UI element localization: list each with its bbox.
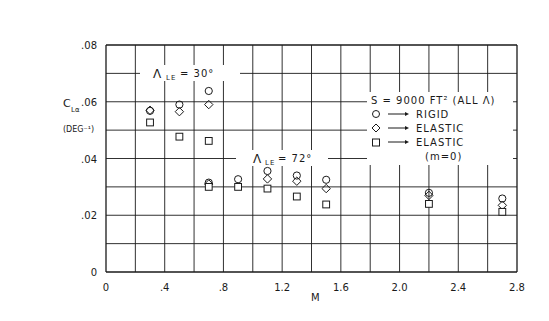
svg-text:(m=0): (m=0)	[425, 151, 462, 162]
circle-marker	[235, 176, 242, 183]
y-tick-label: 0	[91, 267, 97, 278]
legend: S = 9000 FT² (ALL Λ) RIGID ELASTIC ELAST…	[367, 92, 513, 165]
svg-text:Λ: Λ	[253, 152, 262, 166]
x-axis-label: M	[311, 292, 321, 303]
x-tick-label: .4	[160, 282, 170, 293]
svg-text:ELASTIC: ELASTIC	[416, 137, 464, 148]
x-tick-label: .8	[219, 282, 229, 293]
svg-text:= 30°: = 30°	[180, 68, 214, 79]
y-axis-label-subscript: Lα	[71, 106, 80, 114]
square-marker	[176, 133, 183, 140]
diamond-marker	[175, 107, 183, 115]
x-tick-label: 1.6	[333, 282, 349, 293]
x-tick-label: 2.8	[509, 282, 525, 293]
circle-marker	[264, 167, 271, 174]
x-tick-label: 1.2	[274, 282, 290, 293]
svg-text:LE: LE	[166, 74, 176, 82]
y-tick-label: .02	[81, 210, 97, 221]
circle-marker	[323, 176, 330, 183]
square-marker	[147, 119, 154, 126]
circle-marker	[205, 87, 212, 94]
annotation-sweep-72: Λ LE = 72°	[236, 150, 328, 167]
annotation-sweep-30: Λ LE = 30°	[140, 65, 240, 82]
diamond-marker	[322, 184, 330, 192]
y-tick-label: .06	[81, 97, 97, 108]
y-axis-label-units: (DEG⁻¹)	[63, 125, 94, 134]
square-marker	[205, 183, 212, 190]
x-tick-label: 2.0	[392, 282, 408, 293]
x-tick-label: 0	[103, 282, 109, 293]
svg-text:= 72°: = 72°	[278, 153, 312, 164]
svg-text:ELASTIC: ELASTIC	[416, 123, 464, 134]
circle-marker	[293, 172, 300, 179]
x-tick-label: 2.4	[450, 282, 466, 293]
y-axis-tick-labels: 0.02.04.06.08	[81, 40, 97, 278]
svg-text:LE: LE	[265, 159, 275, 167]
svg-text:Λ: Λ	[153, 67, 162, 81]
square-marker	[323, 201, 330, 208]
svg-text:RIGID: RIGID	[416, 109, 449, 120]
legend-title: S = 9000 FT² (ALL Λ)	[371, 95, 495, 106]
square-marker	[235, 183, 242, 190]
square-marker	[264, 185, 271, 192]
square-marker	[205, 138, 212, 145]
y-tick-label: .08	[81, 40, 97, 51]
square-marker	[499, 208, 506, 215]
y-tick-label: .04	[81, 154, 97, 165]
square-marker	[426, 201, 433, 208]
square-marker	[293, 193, 300, 200]
chart: 0.4.81.21.62.02.42.8 0.02.04.06.08 M C L…	[0, 0, 549, 321]
diamond-marker	[263, 175, 271, 183]
